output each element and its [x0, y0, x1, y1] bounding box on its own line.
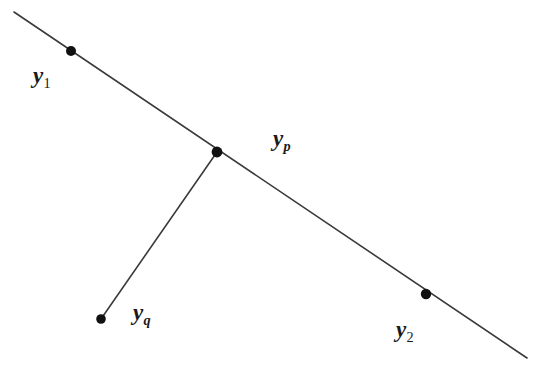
point-label-yq-subscript: q	[144, 312, 151, 328]
point-label-y1-subscript: 1	[44, 75, 51, 91]
point-label-yp-subscript: p	[284, 138, 291, 154]
point-label-y1-base: y	[33, 63, 43, 88]
branch-line-segment	[101, 152, 217, 319]
point-dot-yq	[96, 314, 106, 324]
point-label-y2-base: y	[396, 317, 406, 342]
line-diagram	[0, 0, 548, 376]
point-dot-yp	[212, 147, 223, 158]
point-dot-y2	[421, 289, 431, 299]
figure-canvas: y1 yp yq y2	[0, 0, 548, 376]
point-label-y1: y1	[33, 64, 50, 87]
point-label-yp: yp	[273, 127, 290, 150]
point-label-yp-base: y	[273, 126, 283, 151]
point-label-yq-base: y	[133, 300, 143, 325]
point-dot-y1	[66, 46, 76, 56]
point-label-y2: y2	[396, 318, 413, 341]
point-label-yq: yq	[133, 301, 150, 324]
main-line-segment	[14, 12, 527, 358]
point-label-y2-subscript: 2	[407, 329, 414, 345]
